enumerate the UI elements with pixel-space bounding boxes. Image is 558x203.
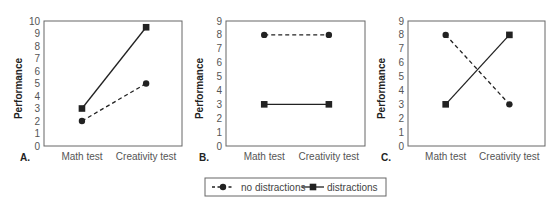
y-tick-label: 7 [216, 43, 222, 54]
legend-label: no distractions [241, 182, 305, 193]
data-point-distractions [143, 24, 150, 31]
y-tick-label: 8 [34, 41, 40, 52]
y-tick-label: 6 [398, 57, 404, 68]
y-tick-label: 3 [398, 99, 404, 110]
y-tick-label: 2 [398, 113, 404, 124]
data-point-no-distractions [143, 80, 149, 86]
legend-label: distractions [327, 182, 378, 193]
y-tick-label: 7 [34, 53, 40, 64]
data-point-no-distractions [442, 32, 448, 38]
y-tick-label: 1 [398, 127, 404, 138]
y-tick-label: 3 [216, 99, 222, 110]
data-point-no-distractions [79, 118, 85, 124]
x-tick-label: Math test [61, 151, 102, 162]
y-axis-label: Performance [376, 57, 387, 119]
y-axis-label: Performance [194, 57, 205, 119]
panel-label: C. [381, 152, 391, 163]
data-point-distractions [442, 101, 449, 108]
x-tick-label: Creativity test [116, 151, 177, 162]
data-point-distractions [79, 105, 86, 112]
y-axis-label: Performance [13, 57, 24, 119]
y-tick-label: 9 [216, 16, 222, 27]
y-tick-label: 8 [216, 29, 222, 40]
data-point-no-distractions [261, 32, 267, 38]
figure: 012345678910Math testCreativity testPerf… [0, 0, 558, 203]
series-line-no-distractions [82, 84, 146, 122]
y-tick-label: 9 [34, 28, 40, 39]
x-tick-label: Creativity test [479, 151, 540, 162]
y-tick-label: 9 [398, 16, 404, 27]
legend-marker [220, 184, 226, 190]
plot-frame [226, 21, 365, 146]
panel-b: 0123456789Math testCreativity testPerfor… [194, 16, 365, 164]
y-tick-label: 6 [34, 66, 40, 77]
y-tick-label: 0 [216, 141, 222, 152]
data-point-distractions [261, 101, 268, 108]
y-tick-label: 2 [216, 113, 222, 124]
x-tick-label: Creativity test [299, 151, 360, 162]
panel-label: B. [199, 152, 209, 163]
panel-label: A. [20, 152, 30, 163]
x-tick-label: Math test [244, 151, 285, 162]
legend-marker [310, 184, 317, 191]
plot-frame [408, 21, 545, 146]
y-tick-label: 1 [34, 128, 40, 139]
y-tick-label: 5 [398, 71, 404, 82]
y-tick-label: 7 [398, 43, 404, 54]
y-tick-label: 0 [34, 141, 40, 152]
y-tick-label: 3 [34, 103, 40, 114]
data-point-no-distractions [326, 32, 332, 38]
y-tick-label: 4 [216, 85, 222, 96]
data-point-distractions [326, 101, 333, 108]
y-tick-label: 10 [29, 16, 41, 27]
y-tick-label: 1 [216, 127, 222, 138]
legend: no distractionsdistractions [205, 178, 386, 196]
series-line-distractions [82, 27, 146, 108]
y-tick-label: 5 [34, 78, 40, 89]
y-tick-label: 8 [398, 29, 404, 40]
y-tick-label: 6 [216, 57, 222, 68]
data-point-no-distractions [506, 101, 512, 107]
panel-a: 012345678910Math testCreativity testPerf… [13, 16, 182, 164]
y-tick-label: 5 [216, 71, 222, 82]
panel-c: 0123456789Math testCreativity testPerfor… [376, 16, 545, 164]
plot-frame [44, 21, 182, 146]
x-tick-label: Math test [425, 151, 466, 162]
y-tick-label: 0 [398, 141, 404, 152]
y-tick-label: 4 [34, 91, 40, 102]
y-tick-label: 2 [34, 116, 40, 127]
y-tick-label: 4 [398, 85, 404, 96]
data-point-distractions [506, 32, 513, 39]
